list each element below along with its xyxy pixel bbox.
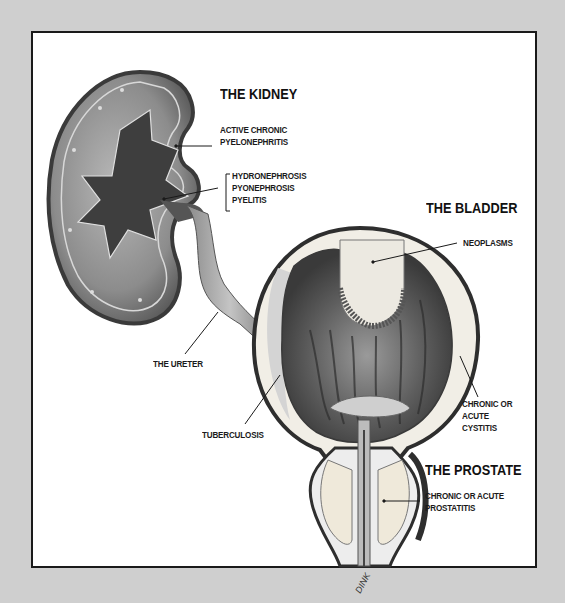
bladder-heading: THE BLADDER — [426, 199, 517, 216]
pyelonephritis-label: ACTIVE CHRONIC PYELONEPHRITIS — [220, 124, 288, 148]
prostate-heading: THE PROSTATE — [425, 461, 522, 478]
kidney-illustration — [49, 72, 205, 323]
kidney-heading: THE KIDNEY — [220, 85, 297, 102]
hydronephrosis-group-label: HYDRONEPHROSIS PYONEPHROSIS PYELITIS — [232, 170, 306, 206]
cystitis-label: CHRONIC OR ACUTE CYSTITIS — [462, 398, 512, 434]
ureter-label: THE URETER — [153, 358, 203, 370]
neoplasms-label: NEOPLASMS — [463, 237, 513, 249]
tuberculosis-label: TUBERCULOSIS — [202, 429, 264, 441]
prostatitis-label: CHRONIC OR ACUTE PROSTATITIS — [425, 490, 504, 514]
